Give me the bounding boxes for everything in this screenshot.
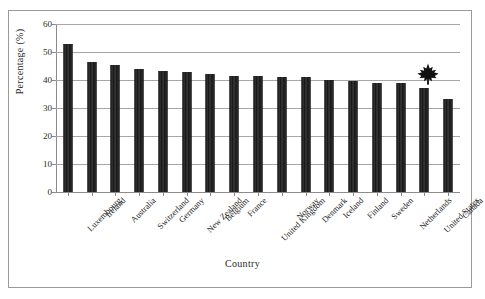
bar[interactable] xyxy=(420,88,429,192)
x-tick-mark xyxy=(448,192,449,196)
x-tick-mark xyxy=(68,192,69,196)
bar[interactable] xyxy=(182,72,191,192)
bar-slot xyxy=(294,24,318,192)
x-tick-mark xyxy=(377,192,378,196)
bar[interactable] xyxy=(206,74,215,192)
y-tick-label-20: 20 xyxy=(26,132,52,141)
bar-slot xyxy=(246,24,270,192)
x-tick-mark xyxy=(424,192,425,196)
bar[interactable] xyxy=(325,80,334,192)
y-tick-label-10: 10 xyxy=(26,160,52,169)
bar[interactable] xyxy=(396,83,405,192)
x-tick-mark xyxy=(282,192,283,196)
bar[interactable] xyxy=(87,62,96,192)
bar[interactable] xyxy=(63,44,72,192)
bar[interactable] xyxy=(230,76,239,192)
bar-slot xyxy=(365,24,389,192)
bar[interactable] xyxy=(277,77,286,192)
x-tick-mark xyxy=(210,192,211,196)
x-tick-mark xyxy=(401,192,402,196)
x-tick-mark xyxy=(163,192,164,196)
bar-slot xyxy=(175,24,199,192)
bar-slot xyxy=(104,24,128,192)
bar[interactable] xyxy=(135,69,144,192)
bar-slot xyxy=(412,24,436,192)
x-tick-mark xyxy=(306,192,307,196)
x-tick-mark xyxy=(92,192,93,196)
y-tick-label-50: 50 xyxy=(26,48,52,57)
bar[interactable] xyxy=(444,99,453,192)
maple-leaf-icon xyxy=(416,62,440,86)
bar-series xyxy=(56,24,460,192)
bar[interactable] xyxy=(349,81,358,192)
bar-slot xyxy=(341,24,365,192)
bar-slot xyxy=(270,24,294,192)
plot-area xyxy=(56,24,460,192)
x-tick-mark xyxy=(187,192,188,196)
bar-slot xyxy=(56,24,80,192)
figure-canvas: Percentage (%) 0102030405060 LuxembourgI… xyxy=(0,0,485,299)
bar-slot xyxy=(199,24,223,192)
x-tick-mark xyxy=(329,192,330,196)
y-tick-label-40: 40 xyxy=(26,76,52,85)
bar-slot xyxy=(80,24,104,192)
bar[interactable] xyxy=(158,71,167,192)
x-tick-mark xyxy=(115,192,116,196)
y-tick-label-30: 30 xyxy=(26,104,52,113)
x-axis-title: Country xyxy=(0,258,485,269)
x-tick-mark xyxy=(258,192,259,196)
bar-slot xyxy=(436,24,460,192)
bar-slot xyxy=(127,24,151,192)
bar[interactable] xyxy=(253,76,262,192)
x-tick-mark xyxy=(234,192,235,196)
y-axis-ticks: 0102030405060 xyxy=(22,0,52,299)
x-tick-mark xyxy=(139,192,140,196)
bar-slot xyxy=(389,24,413,192)
bar-slot xyxy=(317,24,341,192)
x-tick-mark xyxy=(353,192,354,196)
y-tick-label-0: 0 xyxy=(26,188,52,197)
bar[interactable] xyxy=(372,83,381,192)
y-tick-label-60: 60 xyxy=(26,20,52,29)
bar[interactable] xyxy=(111,65,120,192)
bar-slot xyxy=(151,24,175,192)
bar[interactable] xyxy=(301,77,310,192)
bar-slot xyxy=(222,24,246,192)
